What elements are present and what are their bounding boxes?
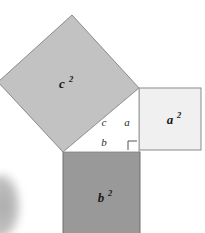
label-b-squared-base: b [98, 190, 105, 205]
figure-canvas: c 2 a 2 b 2 c a b [0, 0, 205, 233]
label-c-squared-base: c [59, 76, 65, 91]
side-label-c: c [102, 116, 107, 128]
label-b-squared-exponent: 2 [107, 188, 113, 198]
label-a-squared-exponent: 2 [176, 110, 182, 120]
label-c-squared-exponent: 2 [68, 74, 74, 84]
side-label-a: a [124, 116, 130, 128]
label-a-squared-base: a [167, 112, 174, 127]
pythagorean-figure: c 2 a 2 b 2 c a b [0, 0, 205, 233]
side-label-b: b [101, 136, 107, 148]
